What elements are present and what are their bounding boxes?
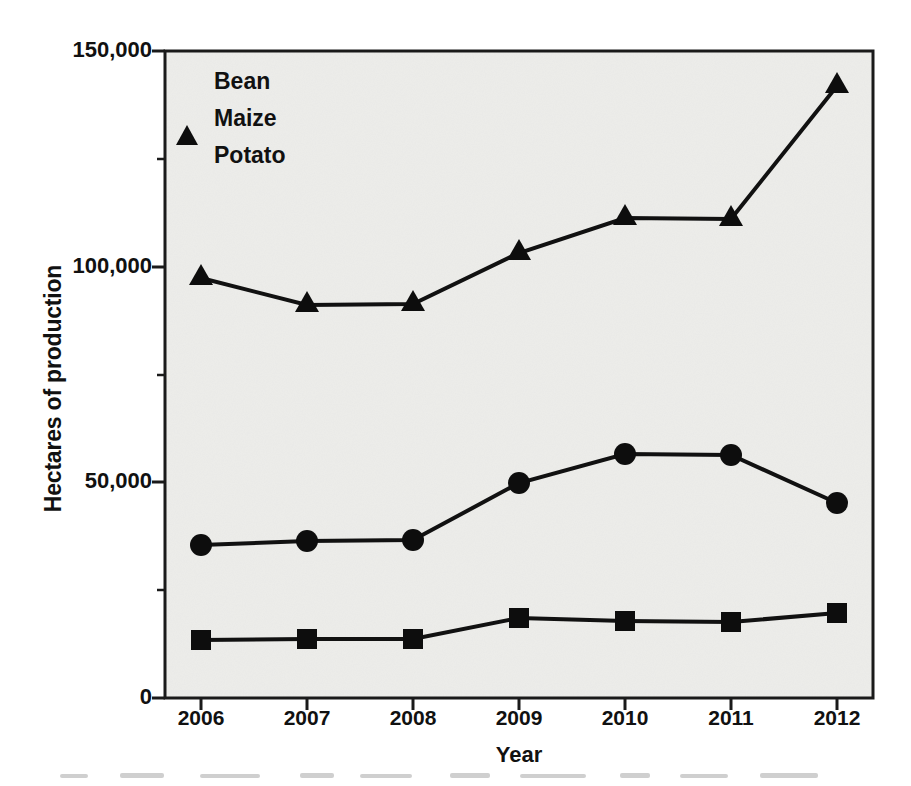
square-marker-icon [176, 145, 198, 167]
legend-item-bean: Bean [176, 66, 356, 103]
x-tick-2007: 2007 [262, 706, 352, 730]
data-point [191, 630, 211, 650]
data-point [721, 612, 741, 632]
y-tick-50000: 50,000 [12, 468, 152, 494]
data-point [720, 444, 742, 466]
legend-item-maize: Maize [176, 103, 356, 140]
triangle-marker-icon [176, 108, 198, 130]
y-tick-0: 0 [12, 684, 152, 710]
legend-label-bean: Bean [214, 68, 270, 95]
legend-label-maize: Maize [214, 105, 277, 132]
data-point [297, 629, 317, 649]
x-tick-2006: 2006 [156, 706, 246, 730]
data-point [402, 529, 424, 551]
x-tick-2010: 2010 [580, 706, 670, 730]
data-point [826, 492, 848, 514]
x-tick-2008: 2008 [368, 706, 458, 730]
data-point [509, 608, 529, 628]
x-tick-2011: 2011 [686, 706, 776, 730]
circle-marker-icon [176, 71, 198, 93]
data-point [403, 629, 423, 649]
x-tick-2009: 2009 [474, 706, 564, 730]
data-point [296, 530, 318, 552]
chart-page: Hectares of production 150,000 100,000 5… [0, 0, 911, 786]
data-point [190, 534, 212, 556]
legend-item-potato: Potato [176, 140, 356, 177]
chart-legend: Bean Maize Potato [176, 66, 356, 177]
x-tick-2012: 2012 [792, 706, 882, 730]
y-tick-150000: 150,000 [12, 37, 152, 63]
line-chart-figure: Hectares of production 150,000 100,000 5… [0, 0, 911, 786]
data-point [615, 611, 635, 631]
x-axis-title: Year [165, 742, 873, 768]
data-point [508, 472, 530, 494]
data-point [827, 603, 847, 623]
y-tick-100000: 100,000 [12, 253, 152, 279]
legend-label-potato: Potato [214, 142, 286, 169]
data-point [614, 443, 636, 465]
y-axis-tick-labels: 150,000 100,000 50,000 0 [0, 0, 152, 786]
